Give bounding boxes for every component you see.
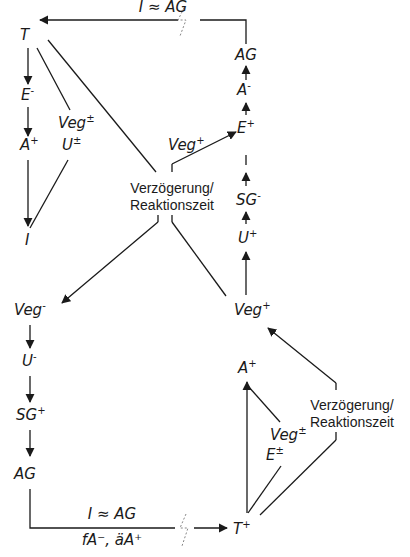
svg-text:Veg+: Veg+	[234, 300, 271, 319]
svg-text:E±: E±	[266, 445, 284, 464]
break-mark-bottom	[180, 514, 188, 546]
node-AG-bottom: AG	[13, 465, 36, 483]
feedback-diagram: I ≈ AG T E- A+ I Veg± U± Verzögerung/ Re…	[0, 0, 410, 557]
bottom-cycle-label-top: I ≈ AG	[88, 505, 136, 523]
node-E-plus: E+	[237, 118, 255, 137]
svg-text:Veg±: Veg±	[270, 425, 307, 444]
bottom-cycle-label-bottom: fA⁻, äA⁺	[82, 531, 142, 549]
svg-text:SG+: SG+	[16, 405, 46, 424]
svg-text:AG: AG	[13, 465, 36, 483]
node-U-minus: U-	[22, 351, 37, 370]
svg-text:AG: AG	[234, 46, 257, 64]
svg-text:T: T	[20, 26, 31, 44]
delay-label-bottom-right: Verzögerung/ Reaktionszeit	[310, 397, 394, 430]
node-U-pm: U±	[62, 135, 81, 154]
node-Veg-plus-right: Veg+	[234, 300, 271, 319]
node-A-plus-bottom: A+	[237, 358, 257, 377]
node-E-pm-bottom: E±	[266, 445, 284, 464]
node-A-minus: A-	[236, 80, 251, 99]
svg-text:U+: U+	[238, 228, 257, 247]
node-I: I	[25, 231, 30, 249]
top-cycle-label: I ≈ AG	[139, 0, 187, 16]
svg-text:U±: U±	[62, 135, 81, 154]
node-T-plus: T+	[233, 519, 251, 538]
node-Veg-pm: Veg±	[58, 113, 95, 132]
svg-text:I: I	[25, 231, 30, 249]
node-E-minus: E-	[21, 85, 34, 104]
svg-text:Reaktionszeit: Reaktionszeit	[310, 414, 394, 430]
svg-text:SG-: SG-	[236, 190, 261, 209]
svg-text:Verzögerung/: Verzögerung/	[310, 397, 393, 413]
svg-text:Veg-: Veg-	[14, 300, 46, 319]
svg-text:Veg±: Veg±	[58, 113, 95, 132]
svg-text:A+: A+	[237, 358, 257, 377]
delay-label-center: Verzögerung/ Reaktionszeit	[130, 180, 214, 213]
node-Veg-minus: Veg-	[14, 300, 46, 319]
svg-text:U-: U-	[22, 351, 37, 370]
node-SG-plus: SG+	[16, 405, 46, 424]
node-A-plus: A+	[19, 135, 39, 154]
node-Veg-pm-bottom: Veg±	[270, 425, 307, 444]
node-SG-minus: SG-	[236, 190, 261, 209]
svg-text:E+: E+	[237, 118, 255, 137]
svg-text:A+: A+	[19, 135, 39, 154]
svg-text:Verzögerung/: Verzögerung/	[130, 180, 213, 196]
node-AG-top: AG	[234, 46, 257, 64]
svg-text:A-: A-	[236, 80, 251, 99]
svg-text:Reaktionszeit: Reaktionszeit	[130, 197, 214, 213]
svg-text:T+: T+	[233, 519, 251, 538]
node-T: T	[20, 26, 31, 44]
svg-text:E-: E-	[21, 85, 34, 104]
node-U-plus: U+	[238, 228, 257, 247]
